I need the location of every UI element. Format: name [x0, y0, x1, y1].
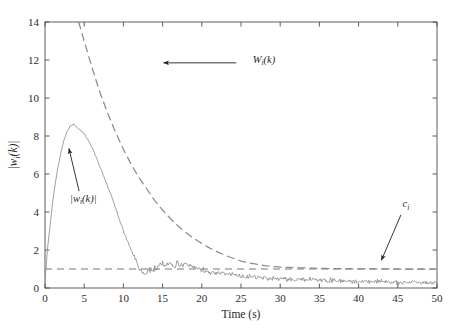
figure-root: 05101520253035404550 02468101214 Wi(k)|w…: [0, 0, 453, 336]
x-tick-label: 45: [392, 292, 404, 304]
y-tick-label: 2: [34, 244, 40, 256]
y-tick-label: 14: [28, 16, 40, 28]
x-axis-title: Time (s): [222, 308, 261, 321]
x-tick-label: 5: [81, 292, 87, 304]
x-tick-label: 50: [432, 292, 444, 304]
x-tick-label: 35: [314, 292, 326, 304]
x-tick-label: 40: [353, 292, 365, 304]
x-tick-label: 10: [118, 292, 130, 304]
y-tick-label: 6: [34, 168, 40, 180]
y-tick-label: 12: [28, 54, 39, 66]
y-axis-title: |wi(k)|: [7, 140, 22, 169]
y-tick-label: 0: [34, 282, 40, 294]
x-tick-label: 20: [196, 292, 208, 304]
y-tick-label: 10: [28, 92, 40, 104]
x-tick-label: 15: [157, 292, 169, 304]
chart-canvas: 05101520253035404550 02468101214 Wi(k)|w…: [0, 0, 453, 336]
x-tick-label: 0: [42, 292, 48, 304]
y-tick-label: 4: [34, 206, 40, 218]
y-tick-label: 8: [34, 130, 40, 142]
x-tick-label: 30: [275, 292, 287, 304]
x-tick-label: 25: [236, 292, 248, 304]
plot-frame: [45, 22, 437, 288]
